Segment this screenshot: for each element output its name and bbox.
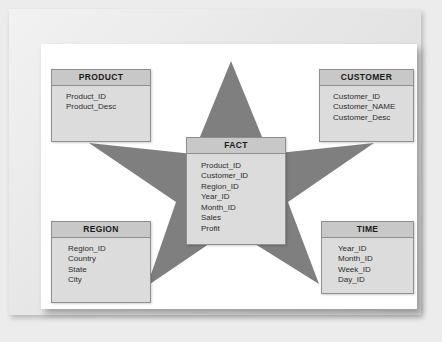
field: Month_ID [338, 254, 413, 265]
entity-product-fields: Product_ID Product_Desc [52, 86, 150, 119]
field: Week_ID [338, 265, 413, 276]
entity-customer-title: CUSTOMER [320, 70, 413, 86]
diagram-canvas: PRODUCT Product_ID Product_Desc CUSTOMER… [41, 44, 417, 309]
field: State [68, 265, 150, 276]
field: Year_ID [201, 192, 285, 203]
field: Product_ID [201, 161, 285, 172]
diagram-page: PRODUCT Product_ID Product_Desc CUSTOMER… [0, 0, 442, 342]
entity-time-fields: Year_ID Month_ID Week_ID Day_ID [322, 238, 413, 292]
field: Day_ID [338, 275, 413, 286]
entity-product-title: PRODUCT [52, 70, 150, 86]
field: Year_ID [338, 244, 413, 255]
entity-product[interactable]: PRODUCT Product_ID Product_Desc [51, 69, 151, 142]
entity-customer[interactable]: CUSTOMER Customer_ID Customer_NAME Custo… [319, 69, 414, 142]
field: Customer_Desc [333, 113, 413, 124]
field: Customer_ID [201, 171, 285, 182]
entity-region-fields: Region_ID Country State City [52, 238, 150, 292]
entity-fact[interactable]: FACT Product_ID Customer_ID Region_ID Ye… [186, 137, 286, 245]
entity-fact-title: FACT [187, 138, 285, 154]
entity-fact-fields: Product_ID Customer_ID Region_ID Year_ID… [187, 154, 285, 241]
entity-customer-fields: Customer_ID Customer_NAME Customer_Desc [320, 86, 413, 130]
entity-time-title: TIME [322, 222, 413, 238]
field: Profit [201, 224, 285, 235]
field: Country [68, 254, 150, 265]
field: Sales [201, 213, 285, 224]
field: Region_ID [201, 182, 285, 193]
field: Customer_ID [333, 92, 413, 103]
field: Region_ID [68, 244, 150, 255]
field: Product_Desc [66, 102, 150, 113]
field: Month_ID [201, 203, 285, 214]
field: Product_ID [66, 92, 150, 103]
field: City [68, 275, 150, 286]
outer-frame: PRODUCT Product_ID Product_Desc CUSTOMER… [9, 9, 421, 315]
entity-region-title: REGION [52, 222, 150, 238]
entity-time[interactable]: TIME Year_ID Month_ID Week_ID Day_ID [321, 221, 414, 294]
field: Customer_NAME [333, 102, 413, 113]
entity-region[interactable]: REGION Region_ID Country State City [51, 221, 151, 303]
